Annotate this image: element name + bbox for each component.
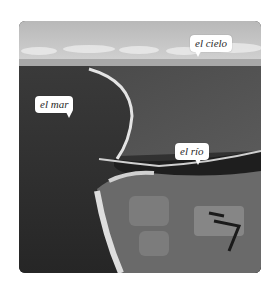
label-sea: el mar xyxy=(35,96,73,113)
label-sky-text: el cielo xyxy=(195,37,227,49)
landscape-illustration xyxy=(19,21,261,273)
label-river-text: el río xyxy=(180,145,204,157)
callout-tail xyxy=(66,112,72,118)
callout-tail xyxy=(195,159,201,165)
aerial-coast-photo xyxy=(19,21,261,273)
label-sky: el cielo xyxy=(190,35,232,52)
label-river: el río xyxy=(175,143,209,160)
label-sea-text: el mar xyxy=(40,98,68,110)
callout-tail xyxy=(195,51,201,57)
